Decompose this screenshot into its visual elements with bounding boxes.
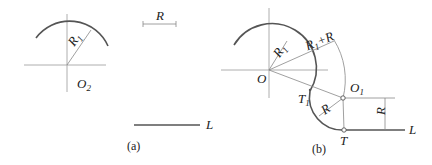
figure-a: R1 O2 R L (a) bbox=[24, 8, 213, 153]
line-o1-to-t bbox=[343, 98, 344, 130]
point-o1 bbox=[341, 96, 345, 100]
diagram-canvas: R1 O2 R L (a) R bbox=[0, 0, 432, 165]
dim-r-label: R bbox=[373, 107, 388, 116]
o2-label: O2 bbox=[77, 76, 91, 93]
given-r-label: R bbox=[155, 8, 164, 23]
t1-label: T1 bbox=[298, 91, 310, 108]
arc-r1 bbox=[234, 24, 316, 91]
point-t1 bbox=[309, 89, 311, 91]
line-l-label: L bbox=[408, 122, 416, 137]
line-l-label: L bbox=[205, 117, 213, 132]
caption-a: (a) bbox=[127, 139, 140, 153]
o1-label: O1 bbox=[350, 80, 364, 97]
arc-r1-plus-r bbox=[334, 40, 345, 98]
line-o-to-o1 bbox=[269, 70, 343, 98]
r1-label: R1 bbox=[269, 41, 291, 62]
o-label: O bbox=[257, 71, 267, 86]
point-t bbox=[342, 128, 346, 132]
figure-b: R O R1 R1+R T1 O1 R T L (b) bbox=[221, 8, 416, 156]
r1-plus-r-label: R1+R bbox=[302, 28, 336, 55]
caption-b: (b) bbox=[312, 142, 326, 156]
t-label: T bbox=[340, 133, 348, 148]
